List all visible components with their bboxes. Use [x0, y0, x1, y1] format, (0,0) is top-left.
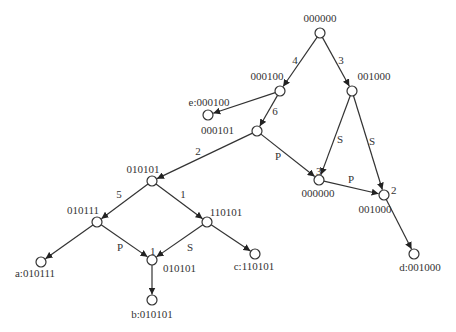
graph-node [252, 126, 262, 136]
edge-n4-n5 [157, 133, 253, 178]
edge-label: S [369, 135, 375, 147]
node-count-annotation: 3 [316, 165, 322, 177]
node-count-annotation: 2 [391, 184, 397, 196]
edge-label: S [337, 133, 343, 145]
graph-node [92, 217, 102, 227]
graph-node [275, 86, 285, 96]
graph-node [202, 217, 212, 227]
edge-n8-n11 [45, 225, 92, 259]
graph-node [379, 190, 389, 200]
edge-label: 2 [195, 145, 201, 157]
node-label: 000000 [302, 187, 336, 199]
node-label: c:110101 [234, 260, 275, 272]
edge-n4-n6 [261, 134, 315, 176]
edge-n0-n2 [322, 37, 349, 86]
node-label: e:000100 [189, 96, 230, 108]
edge-label: 3 [338, 54, 344, 66]
graph-node [147, 176, 157, 186]
state-transition-graph: 4362PSSP51PS 000000000100001000e:0001000… [0, 0, 456, 332]
edge-n5-n8 [101, 184, 148, 219]
node-label: 010101 [127, 163, 160, 175]
edge-n9-n12 [211, 225, 250, 251]
node-label: 000000 [304, 12, 338, 24]
node-label: 000100 [251, 70, 285, 82]
graph-node [36, 257, 46, 267]
edge-n0-n1 [283, 37, 317, 86]
edge-n2-n7 [353, 96, 382, 190]
graph-node [315, 28, 325, 38]
node-label: a:010111 [15, 267, 55, 279]
node-label: 010111 [67, 204, 99, 216]
edge-label: P [275, 150, 281, 162]
node-labels: 000000000100001000e:00010000010101010100… [15, 12, 441, 320]
edge-label: 6 [272, 105, 278, 117]
edge-labels: 4362PSSP51PS [116, 54, 375, 253]
graph-node [409, 249, 419, 259]
edge-n8-n10 [101, 225, 147, 257]
graph-node [250, 249, 260, 259]
graph-node [347, 86, 357, 96]
edge-n2-n6 [321, 96, 350, 175]
node-label: d:001000 [399, 261, 441, 273]
edge-label: 5 [116, 188, 122, 200]
edge-label: P [117, 241, 123, 253]
node-label: 010101 [163, 262, 196, 274]
edge-n9-n10 [157, 225, 203, 257]
node-label: 000101 [201, 124, 234, 136]
node-label: 110101 [210, 206, 243, 218]
node-label: 001000 [358, 70, 392, 82]
edge-label: 4 [292, 54, 298, 66]
node-label: 001000 [359, 203, 393, 215]
edge-label: S [187, 241, 193, 253]
graph-node [203, 110, 213, 120]
graph-node [147, 295, 157, 305]
edge-label: P [348, 173, 354, 185]
node-count-annotation: 1 [150, 245, 156, 257]
node-label: b:010101 [131, 308, 173, 320]
edge-label: 1 [180, 188, 186, 200]
